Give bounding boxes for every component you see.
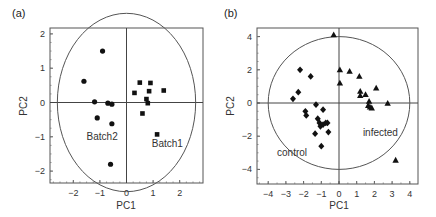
- data-point-infected: [330, 32, 336, 38]
- x-axis-label: PC1: [329, 200, 349, 211]
- x-axis-label: PC1: [116, 200, 136, 211]
- axis-ticks: −2−1012−2−1012: [35, 29, 200, 198]
- data-point-control: [297, 66, 303, 73]
- data-point-infected: [366, 98, 372, 104]
- x-tick-label: 0: [336, 189, 341, 199]
- x-tick-label: 0: [124, 188, 129, 198]
- data-points: [290, 32, 399, 163]
- data-point-batch1: [155, 132, 160, 137]
- data-point-control: [290, 95, 296, 102]
- data-point-control: [325, 129, 331, 136]
- y-tick-label: 0: [40, 98, 45, 108]
- x-tick-label: 2: [177, 188, 182, 198]
- data-point-control: [320, 106, 326, 113]
- data-point-control: [313, 101, 319, 108]
- y-tick-label: −2: [35, 166, 45, 176]
- x-tick-label: −2: [298, 189, 308, 199]
- data-point-batch1: [140, 111, 145, 116]
- data-point-control: [308, 73, 314, 80]
- data-point-batch2: [81, 79, 86, 84]
- data-point-batch2: [108, 162, 113, 167]
- y-tick-label: −2: [242, 131, 252, 141]
- data-point-batch1: [148, 81, 153, 86]
- y-tick-label: −1: [35, 132, 45, 142]
- x-tick-label: −4: [263, 189, 273, 199]
- x-tick-label: −1: [316, 189, 326, 199]
- annotation-batch2: Batch2: [87, 131, 119, 142]
- data-point-batch2: [109, 102, 114, 107]
- x-tick-label: −3: [281, 189, 291, 199]
- data-point-batch1: [144, 97, 149, 102]
- panel-a-label: (a): [12, 7, 25, 19]
- data-point-infected: [362, 91, 368, 97]
- pca-figure: (a) −2−1012−2−1012 Batch2 Batch1 PC1 PC2…: [0, 0, 436, 217]
- y-tick-label: 2: [40, 29, 45, 39]
- x-tick-label: 1: [151, 188, 156, 198]
- y-tick-label: 1: [40, 63, 45, 73]
- data-point-batch1: [138, 80, 143, 85]
- annotation-infected: infected: [363, 127, 398, 138]
- data-point-batch1: [161, 88, 166, 93]
- y-tick-label: 0: [247, 98, 252, 108]
- x-tick-label: 2: [372, 189, 377, 199]
- axis-ticks: −4−3−2−101234−4−2024: [242, 32, 413, 199]
- data-point-infected: [392, 157, 398, 163]
- x-tick-label: −1: [95, 188, 105, 198]
- data-point-batch2: [100, 48, 105, 53]
- data-point-control: [312, 130, 318, 137]
- data-point-batch1: [132, 91, 137, 96]
- data-point-control: [295, 89, 301, 96]
- data-point-batch1: [145, 101, 150, 106]
- x-tick-label: 3: [390, 189, 395, 199]
- data-point-batch2: [109, 121, 114, 126]
- data-point-control: [318, 143, 324, 150]
- y-tick-label: 2: [247, 65, 252, 75]
- annotation-control: control: [277, 147, 307, 158]
- x-tick-label: −2: [68, 188, 78, 198]
- plot-geometry: [50, 13, 203, 191]
- data-point-infected: [373, 85, 379, 91]
- y-axis-label: PC2: [225, 96, 236, 116]
- data-point-infected: [346, 68, 352, 74]
- data-point-infected: [337, 80, 343, 86]
- panel-b: (b) −4−3−2−101234−4−2024 control infecte…: [224, 7, 418, 211]
- data-point-batch2: [95, 115, 100, 120]
- panel-b-label: (b): [224, 7, 237, 19]
- panel-a: (a) −2−1012−2−1012 Batch2 Batch1 PC1 PC2: [12, 7, 203, 211]
- data-point-batch1: [147, 89, 152, 94]
- data-point-infected: [356, 73, 362, 79]
- x-tick-label: 1: [354, 189, 359, 199]
- y-tick-label: 4: [247, 32, 252, 42]
- annotation-batch1: Batch1: [152, 138, 184, 149]
- x-tick-label: 4: [407, 189, 412, 199]
- data-point-batch2: [92, 99, 97, 104]
- y-axis-label: PC2: [18, 96, 29, 116]
- y-tick-label: −4: [242, 164, 252, 174]
- data-point-infected: [337, 66, 343, 72]
